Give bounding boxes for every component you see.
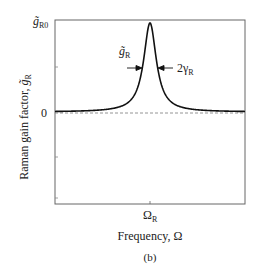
annotation-gr: g̃R (119, 44, 131, 60)
panel-label: (b) (144, 251, 157, 264)
x-tick-label: ΩR (143, 208, 158, 224)
annotation-arrows (127, 66, 173, 71)
y-tick-gr0: g̃R0 (33, 14, 48, 30)
x-axis-label: Frequency, Ω (118, 229, 183, 243)
plot-frame (55, 20, 245, 204)
y-tick-zero: 0 (41, 106, 47, 120)
annotation-2gamma: 2γR (177, 61, 194, 77)
y-axis-label: Raman gain factor, g̃R (17, 74, 33, 180)
raman-gain-chart: g̃R 2γR g̃R0 0 ΩR Frequency, Ω (b) Raman… (0, 0, 256, 275)
gain-curve (55, 23, 245, 111)
